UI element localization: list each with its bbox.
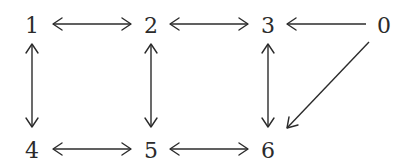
edge-3-6-bidirectional-arrow-icon (262, 44, 274, 127)
node-5: 5 (144, 138, 158, 163)
edge-2-3-bidirectional-arrow-icon (170, 18, 248, 30)
edge-1-2-bidirectional-arrow-icon (53, 18, 131, 30)
edge-4-5-bidirectional-arrow-icon (53, 143, 131, 155)
node-2: 2 (144, 13, 158, 38)
node-3: 3 (261, 13, 275, 38)
edge-2-5-bidirectional-arrow-icon (145, 44, 157, 127)
node-0: 0 (377, 13, 391, 38)
node-1: 1 (25, 13, 39, 38)
edge-0-3-arrow-icon (287, 18, 366, 30)
node-4: 4 (25, 138, 39, 163)
edge-5-6-bidirectional-arrow-icon (170, 143, 248, 155)
node-6: 6 (261, 138, 275, 163)
graph-diagram: 1 2 3 0 4 5 6 (0, 0, 407, 168)
edge-1-4-bidirectional-arrow-icon (26, 44, 38, 127)
edge-0-6-arrow-icon (287, 42, 369, 128)
